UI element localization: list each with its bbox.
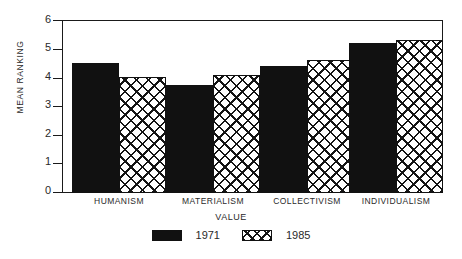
bar-chart: MEAN RANKING 0 1 2 3 4 5 6 HUMANISM MATE… [0,0,462,259]
y-tick-label-6: 6 [29,14,51,25]
chart-legend: 1971 1985 [0,230,462,241]
bar-collectivism-1985 [307,60,354,193]
y-tick-label-1: 1 [29,156,51,167]
y-tick-mark-2 [53,135,62,136]
y-tick-label-3: 3 [29,99,51,110]
bar-individualism-1985 [396,40,443,193]
bar-humanism-1985 [119,77,166,193]
y-tick-label-0: 0 [29,185,51,196]
legend-item-1971: 1971 [152,230,220,241]
legend-swatch-solid-icon [152,230,182,241]
x-axis-title: VALUE [0,212,462,222]
plot-frame-top [62,20,443,21]
y-tick-mark-6 [53,20,62,21]
y-tick-mark-1 [53,163,62,164]
bar-collectivism-1971 [260,66,307,193]
y-tick-mark-4 [53,78,62,79]
y-tick-label-5: 5 [29,42,51,53]
legend-label-1985: 1985 [286,230,310,241]
bar-materialism-1971 [166,85,213,193]
y-tick-mark-5 [53,49,62,50]
y-tick-label-4: 4 [29,71,51,82]
y-tick-mark-3 [53,106,62,107]
legend-item-1985: 1985 [242,230,310,241]
x-tick-label-individualism: INDIVIDUALISM [336,196,456,206]
y-tick-mark-0 [53,192,62,193]
bar-materialism-1985 [213,75,260,193]
legend-swatch-hatched-icon [242,230,272,241]
legend-label-1971: 1971 [196,230,220,241]
y-axis-line [62,20,63,193]
y-axis-title: MEAN RANKING [15,17,25,137]
y-tick-label-2: 2 [29,128,51,139]
bar-humanism-1971 [72,63,119,193]
bar-individualism-1971 [349,43,396,193]
